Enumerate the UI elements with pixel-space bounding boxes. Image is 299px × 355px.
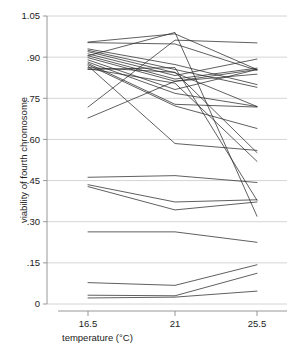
data-line	[88, 265, 257, 286]
data-line	[88, 58, 257, 82]
data-line-group	[88, 32, 257, 298]
y-tick-label-.15: .15	[27, 257, 40, 268]
data-line	[88, 273, 257, 295]
data-line	[88, 65, 257, 129]
x-tick-label-group: 16.52125.5	[79, 318, 267, 329]
gridline-group	[47, 16, 287, 304]
interaction-plot: 0.15.30.45.60.75.901.05 16.52125.5 viabi…	[0, 0, 299, 355]
x-tick-label-21: 21	[170, 318, 181, 329]
y-axis-title: viability of fourth chromosome	[18, 97, 29, 223]
data-line	[88, 291, 257, 298]
tick-group	[43, 16, 257, 316]
data-line	[88, 40, 257, 107]
x-tick-label-25.5: 25.5	[248, 318, 267, 329]
y-tick-label-0: 0	[35, 298, 40, 309]
y-tick-label-.90: .90	[27, 52, 40, 63]
data-line	[88, 176, 257, 183]
y-tick-label-1.05: 1.05	[22, 10, 41, 21]
x-axis-title: temperature (°C)	[62, 332, 133, 343]
data-line	[88, 63, 257, 107]
data-line	[88, 43, 257, 71]
data-line	[88, 232, 257, 242]
x-tick-label-16.5: 16.5	[79, 318, 98, 329]
data-line	[88, 49, 257, 85]
chart-figure: 0.15.30.45.60.75.901.05 16.52125.5 viabi…	[0, 0, 299, 355]
